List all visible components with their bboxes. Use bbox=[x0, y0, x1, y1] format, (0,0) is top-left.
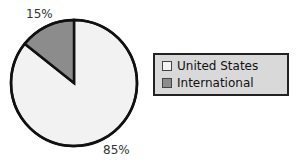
label-international-pct: 15% bbox=[26, 7, 53, 21]
legend-item-international: International bbox=[162, 76, 254, 90]
label-us-pct: 85% bbox=[103, 143, 130, 157]
pie-chart bbox=[0, 0, 150, 163]
legend-label: United States bbox=[177, 59, 258, 73]
legend: United States International bbox=[153, 53, 289, 96]
legend-item-united-states: United States bbox=[162, 59, 258, 73]
legend-label: International bbox=[177, 76, 254, 90]
swatch-icon bbox=[162, 61, 172, 71]
swatch-icon bbox=[162, 78, 172, 88]
